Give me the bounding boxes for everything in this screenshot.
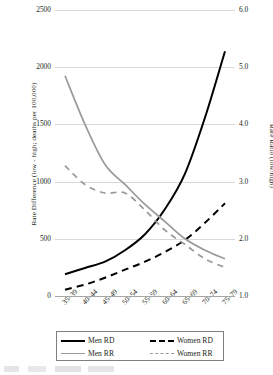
- chart-legend: Men RD Women RD Men RR Women RR: [56, 331, 224, 361]
- legend-swatch-men-rd-icon: [61, 340, 85, 342]
- legend-label-women-rd: Women RD: [177, 336, 213, 345]
- legend-row-rd: Men RD Women RD: [61, 334, 219, 347]
- y-axis-right-tick-label: 3.0: [239, 177, 273, 186]
- legend-label-men-rd: Men RD: [88, 336, 114, 345]
- y-axis-left-tick-label: 2000: [17, 62, 51, 71]
- y-axis-right-tick-label: 2.0: [239, 234, 273, 243]
- series-line-men-rr: [65, 76, 225, 259]
- legend-swatch-women-rd-icon: [150, 340, 174, 342]
- y-axis-right-tick-label: 1.0: [239, 291, 273, 300]
- series-lines: [55, 10, 235, 296]
- series-line-women-rr: [65, 166, 225, 268]
- y-axis-left-tick-label: 500: [17, 234, 51, 243]
- legend-swatch-women-rr-icon: [150, 353, 174, 354]
- legend-swatch-men-rr-icon: [61, 353, 85, 354]
- plot-area: [55, 10, 235, 296]
- y-axis-right-title: Rate Ratio (low/high): [268, 56, 273, 256]
- y-axis-left-tick-label: 1000: [17, 177, 51, 186]
- y-axis-right-tick-label: 5.0: [239, 62, 273, 71]
- legend-label-men-rr: Men RR: [88, 349, 114, 358]
- y-axis-left-tick-label: 2500: [17, 5, 51, 14]
- y-axis-left-title: Rate Difference (low - high; deaths per …: [30, 54, 38, 254]
- y-axis-left-tick-label: 0: [17, 291, 51, 300]
- legend-item-women-rr: Women RR: [150, 349, 212, 358]
- page-artifact: [4, 366, 114, 372]
- legend-item-men-rd: Men RD: [61, 336, 147, 345]
- gridline: [55, 296, 235, 297]
- legend-item-women-rd: Women RD: [150, 336, 213, 345]
- y-axis-left-tick-label: 1500: [17, 119, 51, 128]
- series-line-men-rd: [65, 51, 225, 274]
- legend-item-men-rr: Men RR: [61, 349, 147, 358]
- chart-figure: Rate Difference (low - high; deaths per …: [0, 0, 273, 375]
- y-axis-right-tick-label: 4.0: [239, 119, 273, 128]
- legend-label-women-rr: Women RR: [177, 349, 212, 358]
- y-axis-right-tick-label: 6.0: [239, 5, 273, 14]
- series-line-women-rd: [65, 203, 225, 289]
- legend-row-rr: Men RR Women RR: [61, 347, 219, 360]
